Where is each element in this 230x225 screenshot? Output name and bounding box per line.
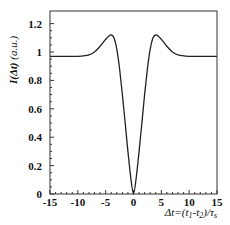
y-axis-label-units: (a.u.) bbox=[7, 36, 20, 63]
y-tick-label: 1.2 bbox=[28, 18, 42, 30]
y-tick-label: 0 bbox=[37, 188, 43, 200]
x-axis-label: Δt=(t1-t2)/τs bbox=[164, 206, 217, 220]
plot-border bbox=[50, 11, 217, 194]
x-tick-label: -15 bbox=[43, 196, 58, 208]
y-tick-label: 0.4 bbox=[28, 131, 42, 143]
x-label-part: Δt=(t bbox=[164, 206, 190, 219]
y-axis-label-main: I(Δt) bbox=[7, 63, 20, 86]
plot-frame bbox=[50, 11, 217, 194]
y-tick-label: 0.8 bbox=[28, 74, 42, 86]
y-axis-ticks: 00.20.40.60.811.2 bbox=[28, 18, 54, 200]
x-tick-label: 5 bbox=[159, 196, 165, 208]
x-tick-label: -10 bbox=[70, 196, 85, 208]
y-axis-label: I(Δt) (a.u.) bbox=[7, 36, 20, 85]
intensity-correlation-chart: -15-10-5051015 00.20.40.60.811.2 I(Δt) (… bbox=[0, 0, 230, 225]
data-curve bbox=[50, 35, 217, 194]
x-label-sub: s bbox=[214, 211, 217, 220]
y-tick-label: 0.2 bbox=[28, 160, 42, 172]
x-tick-label: -5 bbox=[101, 196, 111, 208]
y-tick-label: 1 bbox=[37, 46, 43, 58]
y-tick-label: 0.6 bbox=[28, 103, 42, 115]
x-tick-label: 0 bbox=[131, 196, 137, 208]
